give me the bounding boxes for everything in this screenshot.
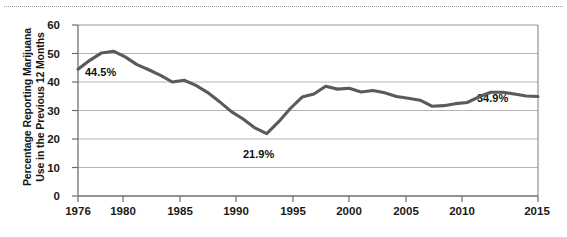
plot-area <box>0 0 567 237</box>
data-series-line <box>78 51 538 133</box>
y-axis-ticks <box>72 25 78 196</box>
chart-figure: Percentage Reporting Marijuana Use in th… <box>0 0 567 237</box>
x-axis-ticks <box>78 196 538 202</box>
